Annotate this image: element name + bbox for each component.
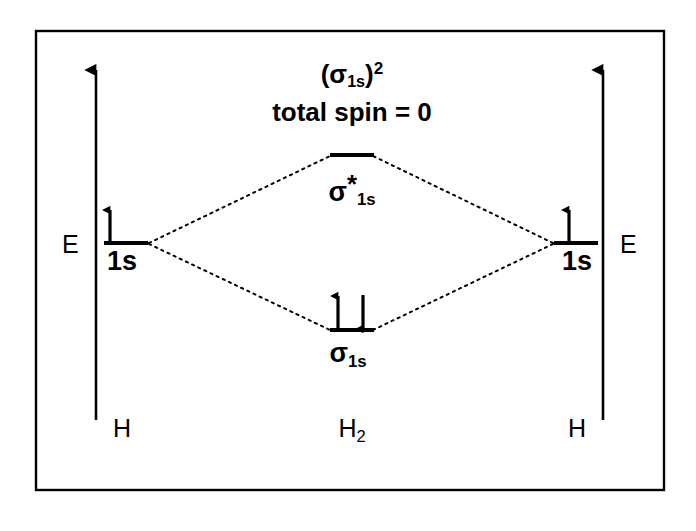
bonding-subscript: 1s (348, 352, 367, 371)
antibonding-sigma-symbol: σ (328, 177, 346, 207)
correlation-line-right-bonding (373, 244, 553, 330)
species-label-center: H2 (338, 416, 365, 444)
species-label-left: H (113, 416, 131, 441)
atomic-left-text: 1s (107, 246, 137, 276)
title-sigma-subscript: 1s (347, 72, 365, 90)
orbital-label-antibonding: σ*1s (328, 172, 375, 209)
diagram-title-line2: total spin = 0 (272, 99, 432, 125)
species-center-main: H (338, 414, 356, 442)
title-superscript: 2 (374, 58, 384, 78)
orbital-label-bonding: σ1s (329, 340, 366, 370)
species-label-right: H (568, 416, 586, 441)
correlation-line-right-antibonding (373, 156, 553, 243)
species-center-subscript: 2 (356, 427, 365, 445)
orbital-label-atomic-right: 1s (562, 248, 592, 275)
mo-diagram-canvas: (σ1s)2 total spin = 0 E E 1s 1s σ*1s σ1s… (0, 0, 696, 531)
antibonding-subscript: 1s (357, 190, 376, 209)
correlation-line-left-antibonding (149, 156, 330, 243)
antibonding-star-symbol: * (347, 170, 357, 198)
title-paren-close: ) (365, 59, 374, 89)
bonding-sigma-symbol: σ (329, 338, 347, 368)
diagram-title-line1: (σ1s)2 (272, 60, 432, 90)
atomic-right-text: 1s (562, 246, 592, 276)
orbital-label-atomic-left: 1s (107, 248, 137, 275)
title-paren-open: ( (321, 59, 330, 89)
title-sigma-symbol: σ (329, 59, 347, 89)
axis-label-energy-left: E (62, 232, 79, 257)
correlation-line-left-bonding (149, 244, 330, 330)
diagram-title: (σ1s)2 total spin = 0 (272, 60, 432, 125)
axis-label-energy-right: E (620, 232, 637, 257)
